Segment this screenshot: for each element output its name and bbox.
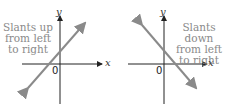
label-line: Slants down bbox=[167, 22, 231, 44]
y-axis-label-left: y bbox=[56, 6, 62, 17]
origin-label-right: 0 bbox=[156, 65, 162, 76]
x-axis-label-right: x bbox=[208, 57, 214, 68]
label-line: to right bbox=[2, 44, 54, 55]
label-line: to right bbox=[167, 55, 231, 66]
y-axis-label-right: y bbox=[160, 6, 166, 17]
right-graph-label: Slants down from left to right bbox=[167, 22, 231, 66]
x-axis-label-left: x bbox=[105, 57, 111, 68]
origin-label-left: 0 bbox=[52, 65, 58, 76]
left-graph-label: Slants up from left to right bbox=[2, 22, 54, 55]
